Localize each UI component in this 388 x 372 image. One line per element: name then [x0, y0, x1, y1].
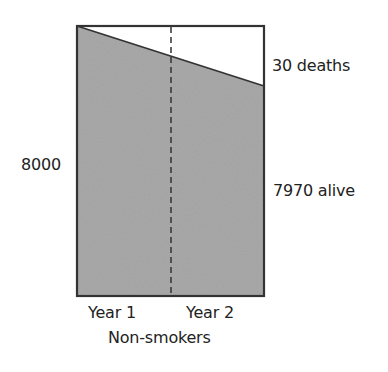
deaths-label: 30 deaths — [272, 58, 350, 74]
alive-label: 7970 alive — [273, 183, 355, 199]
group-label: Non-smokers — [108, 330, 211, 346]
population-diagram: 8000 30 deaths 7970 alive Year 1 Year 2 … — [0, 0, 388, 372]
year-2-label: Year 2 — [186, 305, 234, 321]
year-1-label: Year 1 — [88, 305, 136, 321]
initial-population-label: 8000 — [21, 157, 61, 173]
